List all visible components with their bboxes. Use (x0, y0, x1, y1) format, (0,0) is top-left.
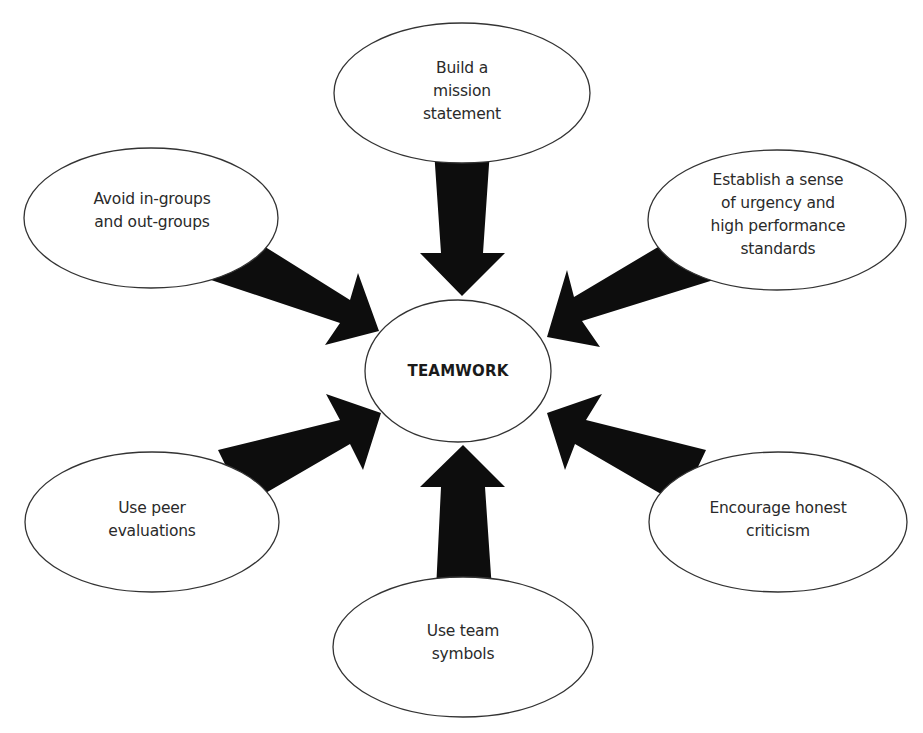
node-label-bottom: Use team symbols (360, 608, 566, 678)
node-label-top-right: Establish a sense of urgency and high pe… (672, 160, 884, 270)
node-label-bottom-right: Encourage honest criticism (672, 488, 884, 552)
center-label: TEAMWORK (365, 340, 551, 402)
node-label-bottom-left: Use peer evaluations (50, 488, 254, 552)
arrow-bottom (420, 445, 505, 590)
node-label-top-left: Avoid in-groups and out-groups (50, 168, 254, 254)
node-label-top: Build a mission statement (360, 25, 564, 157)
arrow-top (420, 150, 505, 296)
